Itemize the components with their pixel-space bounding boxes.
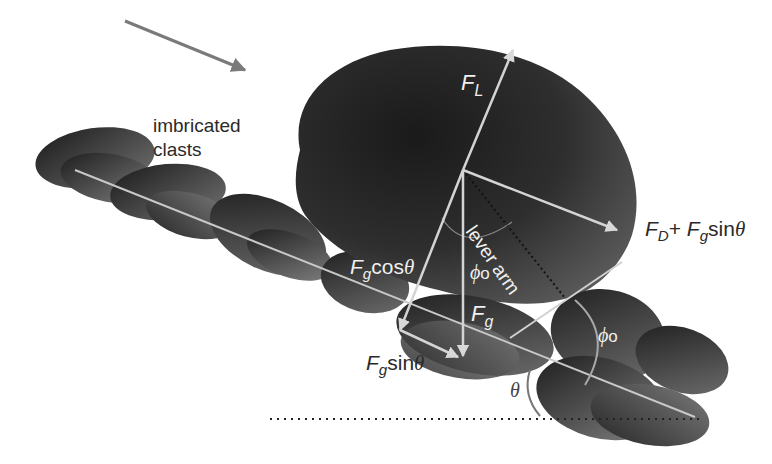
function: sin [387, 351, 414, 374]
subscript: o [608, 327, 617, 346]
theta-label: θ [510, 380, 520, 400]
symbol: F [471, 301, 484, 326]
label-line-2: clasts [153, 138, 241, 162]
subscript: D [658, 227, 669, 244]
gravity-sin-label: Fgsinθ [366, 352, 424, 377]
lift-force-label: FL [461, 72, 483, 98]
imbricated-clasts-label: imbricated clasts [153, 114, 241, 162]
gravity-cos-label: Fgcosθ [350, 256, 414, 281]
symbol: F [350, 255, 363, 278]
subscript: L [474, 82, 483, 99]
symbol: F [687, 217, 700, 240]
theta: θ [404, 255, 414, 279]
symbol: F [645, 217, 658, 240]
plus: + [669, 217, 687, 240]
label-line-1: imbricated [153, 114, 241, 138]
subscript: g [363, 265, 371, 282]
theta: θ [414, 351, 424, 375]
theta: θ [735, 217, 745, 241]
subscript: g [484, 313, 493, 330]
phi: ϕ [598, 324, 608, 346]
subscript: g [700, 227, 708, 244]
phi-label-right: ϕo [598, 325, 618, 345]
function: sin [708, 217, 735, 240]
function: cos [371, 255, 404, 278]
flow-direction-arrow [125, 21, 245, 70]
imbricated-clasts-right [527, 277, 738, 455]
phi: ϕ [470, 261, 480, 283]
gravity-label: Fg [471, 303, 493, 329]
subscript: g [379, 361, 387, 378]
symbol: F [461, 70, 474, 95]
symbol: F [366, 351, 379, 374]
drag-force-label: FD+ Fgsinθ [645, 218, 745, 243]
